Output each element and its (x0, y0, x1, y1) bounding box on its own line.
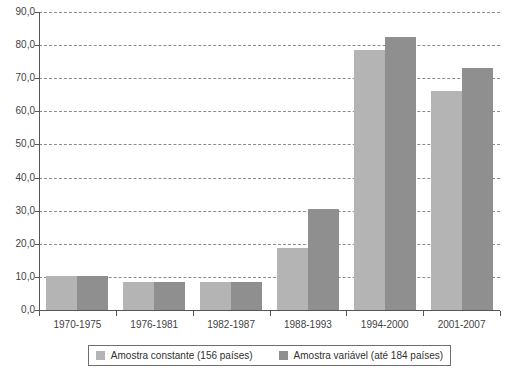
x-axis-tick (270, 311, 271, 316)
bar (308, 209, 339, 310)
bar (231, 282, 262, 310)
bar-chart: 0,010,020,030,040,050,060,070,080,090,0 … (0, 0, 513, 380)
bar (431, 91, 462, 310)
bar (200, 282, 231, 310)
x-axis-tick-label: 2001-2007 (423, 319, 500, 330)
y-axis-tick-label: 80,0 (1, 40, 35, 50)
x-axis-tick (39, 311, 40, 316)
bars-layer (39, 12, 500, 310)
y-axis-tick-label: 50,0 (1, 139, 35, 149)
x-axis-tick-label: 1982-1987 (193, 319, 270, 330)
legend-swatch-icon (96, 351, 105, 360)
bar-group (116, 12, 193, 310)
x-axis-tick-label: 1970-1975 (39, 319, 116, 330)
x-axis-tick (193, 311, 194, 316)
bar (462, 68, 493, 310)
bar (354, 50, 385, 310)
x-axis-tick (423, 311, 424, 316)
bar-group (270, 12, 347, 310)
bar (123, 282, 154, 310)
bar-group (423, 12, 500, 310)
x-axis-tick (500, 311, 501, 316)
y-axis-tick-label: 90,0 (1, 7, 35, 17)
y-axis-tick-label: 0,0 (1, 305, 35, 315)
bar (77, 276, 108, 310)
x-axis-tick-label: 1994-2000 (346, 319, 423, 330)
bar (277, 248, 308, 310)
legend-swatch-icon (279, 351, 288, 360)
legend-label: Amostra variável (até 184 países) (294, 350, 444, 361)
bar (46, 276, 77, 310)
bar (385, 37, 416, 310)
x-axis-tick-label: 1976-1981 (116, 319, 193, 330)
chart-legend: Amostra constante (156 países)Amostra va… (88, 345, 451, 366)
bar-group (39, 12, 116, 310)
bar-group (193, 12, 270, 310)
x-axis-tick-label: 1988-1993 (270, 319, 347, 330)
x-axis-tick (346, 311, 347, 316)
bar (154, 282, 185, 310)
y-axis-tick-label: 30,0 (1, 206, 35, 216)
y-axis-tick-label: 70,0 (1, 73, 35, 83)
y-axis-tick-label: 60,0 (1, 106, 35, 116)
x-axis-tick (116, 311, 117, 316)
legend-item: Amostra variável (até 184 países) (279, 350, 444, 361)
legend-item: Amostra constante (156 países) (96, 350, 253, 361)
y-axis-labels: 0,010,020,030,040,050,060,070,080,090,0 (0, 12, 35, 311)
legend-label: Amostra constante (156 países) (111, 350, 253, 361)
y-axis-tick-label: 20,0 (1, 239, 35, 249)
y-axis-tick-label: 40,0 (1, 173, 35, 183)
bar-group (346, 12, 423, 310)
y-axis-tick-label: 10,0 (1, 272, 35, 282)
